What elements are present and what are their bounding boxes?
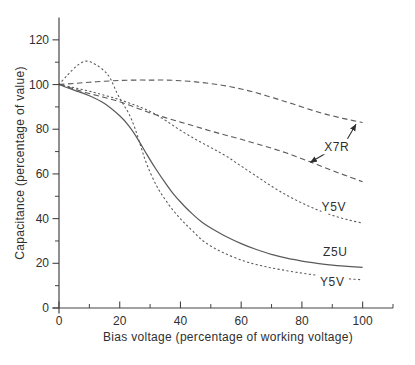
y-axis-title: Capacitance (percentage of value) bbox=[13, 66, 27, 259]
capacitance-vs-bias-chart: Y5VZ5UY5VX7R020406080100020406080100120B… bbox=[0, 0, 415, 365]
curve-y5v-lower bbox=[59, 61, 363, 280]
curve-x7r-lower bbox=[59, 85, 363, 182]
curve-label-y5v-upper: Y5V bbox=[322, 200, 346, 214]
x-tick-label: 80 bbox=[295, 314, 309, 328]
x-tick-label: 20 bbox=[113, 314, 127, 328]
y-tick-label: 60 bbox=[36, 167, 50, 181]
y-tick-label: 100 bbox=[29, 78, 49, 92]
x-tick-label: 100 bbox=[353, 314, 373, 328]
x-tick-label: 0 bbox=[56, 314, 63, 328]
figure-canvas: Y5VZ5UY5VX7R020406080100020406080100120B… bbox=[0, 0, 415, 365]
annotation-arrow-x7r bbox=[310, 153, 326, 163]
curve-label-z5u: Z5U bbox=[323, 245, 347, 259]
annotation-x7r: X7R bbox=[324, 140, 349, 154]
y-tick-label: 120 bbox=[29, 33, 49, 47]
annotation-arrow-x7r bbox=[346, 124, 356, 141]
y-tick-label: 40 bbox=[36, 212, 50, 226]
curve-y5v-upper bbox=[59, 85, 363, 224]
y-tick-label: 20 bbox=[36, 256, 50, 270]
x-tick-label: 40 bbox=[174, 314, 188, 328]
x-axis-title: Bias voltage (percentage of working volt… bbox=[103, 330, 353, 344]
curve-x7r-upper bbox=[59, 80, 363, 122]
y-tick-label: 80 bbox=[36, 122, 50, 136]
curve-label-y5v-lower: Y5V bbox=[320, 275, 344, 289]
y-tick-label: 0 bbox=[42, 301, 49, 315]
x-tick-label: 60 bbox=[235, 314, 249, 328]
